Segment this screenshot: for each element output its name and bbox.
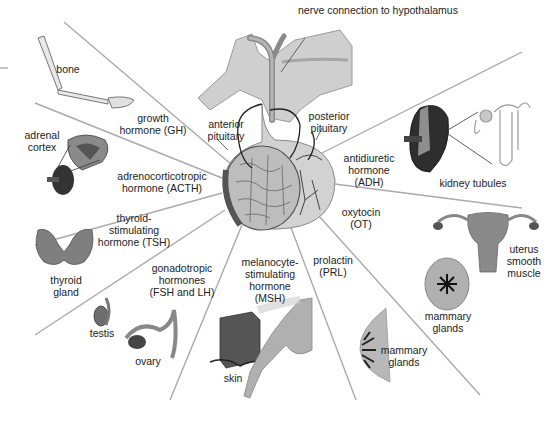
target-label-thyroid-gland: thyroid gland	[44, 274, 88, 298]
posterior-pituitary-label: posterior pituitary	[298, 110, 360, 134]
hormone-label-tsh: thyroid- stimulating hormone (TSH)	[96, 212, 172, 248]
anterior-pituitary-label: anterior pituitary	[196, 118, 256, 142]
hormone-label-adh: antidiuretic hormone (ADH)	[334, 152, 404, 188]
mammary-gland-icon	[425, 258, 469, 310]
kidney-icon	[404, 106, 492, 172]
ovary-icon	[126, 310, 176, 358]
target-label-mammary-glands-prl: mammary glands	[376, 344, 432, 368]
testis-icon	[94, 298, 109, 326]
skin-icon	[210, 312, 262, 368]
hormone-label-gh: growth hormone (GH)	[108, 112, 198, 136]
thyroid-gland-icon	[36, 229, 93, 264]
hormone-label-ot: oxytocin (OT)	[334, 206, 388, 230]
target-label-ovary: ovary	[130, 355, 166, 367]
target-label-mammary-glands-ot: mammary glands	[420, 310, 476, 334]
hormone-label-prl: prolactin (PRL)	[306, 254, 360, 278]
nerve-connection-label: nerve connection to hypothalamus	[298, 4, 528, 16]
target-label-adrenal-cortex: adrenal cortex	[20, 129, 64, 153]
hormone-label-fsh-lh: gonadotropic hormones (FSH and LH)	[140, 262, 224, 298]
target-label-kidney-tubules: kidney tubules	[428, 177, 518, 189]
pituitary-diagram: nerve connection to hypothalamus anterio…	[0, 0, 548, 426]
target-label-bone: bone	[50, 63, 86, 75]
hormone-label-acth: adrenocorticotropic hormone (ACTH)	[102, 170, 222, 194]
target-label-skin: skin	[218, 372, 248, 384]
kidney-tubules-icon	[475, 103, 530, 166]
target-label-testis: testis	[84, 327, 120, 339]
target-label-uterus: uterus smooth muscle	[502, 243, 546, 279]
hormone-label-msh: melanocyte- stimulating hormone (MSH)	[230, 256, 310, 304]
